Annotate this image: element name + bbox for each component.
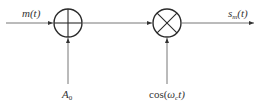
multiplier-block (153, 9, 181, 37)
message-label: m(t) (22, 7, 41, 20)
adder-block (54, 9, 82, 37)
output-label: sm(t) (228, 7, 248, 21)
carrier-label: cos(ωct) (149, 88, 185, 102)
dc-offset-label: A0 (61, 88, 73, 102)
am-modulator-diagram: m(t) sm(t) A0 cos(ωct) (0, 0, 260, 104)
